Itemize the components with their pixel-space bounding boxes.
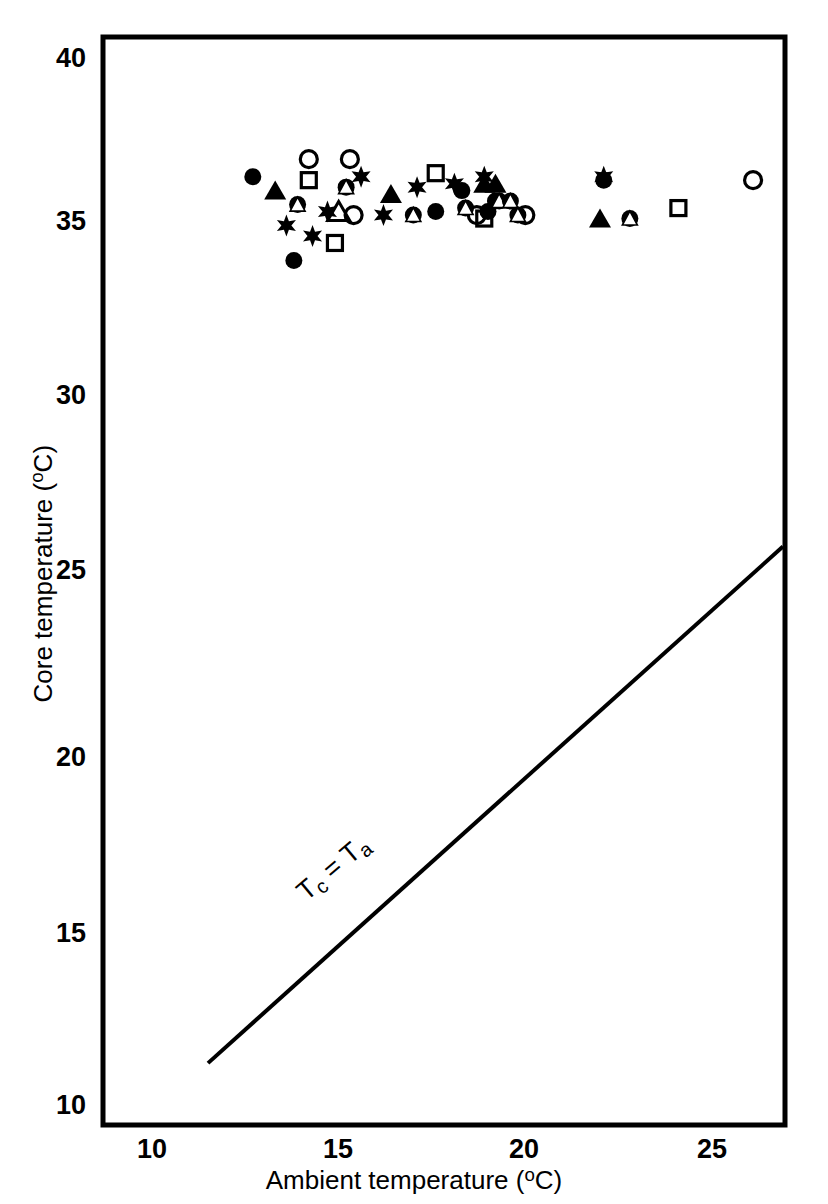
y-axis-title: Core temperature (oC)	[28, 294, 55, 854]
data-point-open-circle	[745, 172, 762, 189]
series-filled-circle	[244, 168, 612, 269]
data-markers-group	[244, 151, 761, 269]
x-axis-title-tail: C)	[535, 1165, 562, 1195]
data-point-overlapped-circle-triangle	[289, 196, 306, 213]
data-point-overlapped-circle-triangle	[621, 210, 638, 227]
x-tick-label-15: 15	[323, 1136, 353, 1163]
y-axis-title-degree: o	[26, 472, 47, 482]
x-axis-title: Ambient temperature (oC)	[0, 1166, 828, 1193]
data-point-overlapped-circle-triangle	[338, 179, 355, 196]
line-equality-annotation: Tc = Ta	[291, 829, 378, 909]
data-point-filled-triangle	[380, 184, 402, 203]
y-tick-label-10: 10	[10, 1092, 86, 1119]
y-tick-label-35: 35	[10, 208, 86, 235]
scatter-plot-figure: Tc = Ta 40 35 30 25 20 15 10 10 15 20 25…	[0, 0, 828, 1204]
series-open-circle	[300, 151, 761, 224]
data-point-open-circle	[341, 151, 358, 168]
data-point-open-square	[428, 166, 443, 181]
data-point-filled-star	[352, 166, 371, 188]
data-point-overlapped-circle-triangle	[457, 200, 474, 217]
data-point-filled-circle	[244, 168, 261, 185]
data-point-filled-triangle	[589, 209, 611, 228]
svg-text:Tc = Ta: Tc = Ta	[291, 829, 378, 909]
data-point-overlapped-circle-triangle	[509, 207, 526, 224]
data-point-filled-circle	[285, 252, 302, 269]
plot-canvas: Tc = Ta	[0, 0, 828, 1204]
data-point-filled-triangle	[264, 181, 286, 200]
data-point-overlapped-circle-triangle	[405, 207, 422, 224]
y-tick-label-15: 15	[10, 920, 86, 947]
x-tick-label-10: 10	[137, 1136, 167, 1163]
x-tick-label-25: 25	[697, 1136, 727, 1163]
x-axis-title-degree: o	[524, 1164, 534, 1185]
y-axis-title-tail: C)	[28, 445, 58, 472]
x-tick-label-20: 20	[509, 1136, 539, 1163]
data-point-open-circle	[300, 151, 317, 168]
data-point-open-square	[301, 173, 316, 188]
y-axis-title-main: Core temperature (	[28, 483, 58, 703]
data-point-filled-star	[277, 215, 296, 237]
data-point-open-square	[327, 235, 342, 250]
data-point-filled-star	[303, 225, 322, 247]
data-point-filled-circle	[427, 203, 444, 220]
y-tick-label-40: 40	[10, 45, 86, 72]
reference-line-tc-equals-ta	[208, 547, 783, 1064]
data-point-filled-star	[408, 176, 427, 198]
data-point-open-square	[671, 201, 686, 216]
x-axis-title-main: Ambient temperature (	[266, 1165, 525, 1195]
data-point-filled-star	[374, 204, 393, 226]
